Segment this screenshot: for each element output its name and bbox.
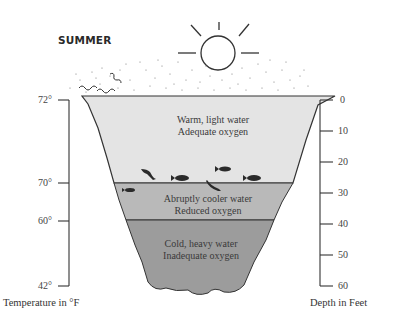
temp-tick-72: 72° [38, 94, 52, 105]
depth-tick-30: 30 [338, 187, 348, 198]
depth-tick-60: 60 [338, 280, 348, 291]
layer-cooler-label: Abruptly cooler water Reduced oxygen [143, 193, 273, 217]
layer-warm-label: Warm, light water Adequate oxygen [148, 114, 278, 138]
depth-tick-0: 0 [340, 94, 345, 105]
depth-tick-40: 40 [338, 218, 348, 229]
temperature-axis [58, 100, 69, 286]
air-stipple [69, 59, 308, 92]
wind-squiggle-icon [79, 73, 121, 93]
layer-cold-label: Cold, heavy water Inadequate oxygen [136, 238, 266, 262]
temp-tick-60: 60° [38, 215, 52, 226]
sun-icon [178, 22, 259, 70]
layer-warm [82, 96, 335, 183]
depth-tick-20: 20 [338, 156, 348, 167]
depth-tick-50: 50 [338, 249, 348, 260]
temp-tick-42: 42° [38, 280, 52, 291]
temperature-axis-title: Temperature in °F [3, 297, 79, 308]
depth-axis-title: Depth in Feet [310, 297, 367, 308]
temp-tick-70: 70° [38, 177, 52, 188]
depth-tick-10: 10 [338, 125, 348, 136]
depth-axis [320, 100, 333, 286]
